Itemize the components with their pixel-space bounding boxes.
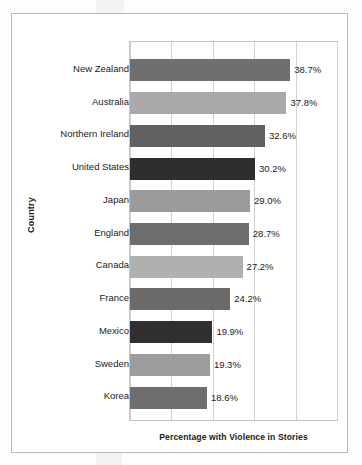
bar-value-label: 37.8% [286,92,317,114]
y-axis-tick-labels: New ZealandAustraliaNorthern IrelandUnit… [18,41,129,421]
scan-artifact-bottom [96,453,122,465]
chart-figure-frame: Country New ZealandAustraliaNorthern Ire… [11,13,348,453]
bar [130,288,230,310]
bar-row: 28.7% [130,218,337,251]
y-axis-tick-label: Australia [18,86,129,119]
bar-value-label: 32.6% [265,125,296,147]
y-axis-tick-label: France [18,282,129,315]
y-axis-tick-label: Japan [18,184,129,217]
bar-row: 19.9% [130,316,337,349]
gridline-50 [337,42,338,420]
x-axis-title: Percentage with Violence in Stories [129,432,338,442]
bar-value-label: 18.6% [207,387,238,409]
bar [130,321,212,343]
y-axis-tick-label: Mexico [18,315,129,348]
bar-row: 32.6% [130,119,337,152]
y-axis-tick-label: England [18,217,129,250]
bar-value-label: 30.2% [255,158,286,180]
bar [130,92,286,114]
bar-row: 19.3% [130,349,337,382]
y-axis-tick-label: United States [18,151,129,184]
bar-row: 29.0% [130,185,337,218]
bar-row: 24.2% [130,283,337,316]
bar-value-label: 38.7% [290,59,321,81]
bar-value-label: 19.3% [210,354,241,376]
y-axis-tick-label: New Zealand [18,53,129,86]
bar-value-label: 27.2% [243,256,274,278]
bar-series: 38.7%37.8%32.6%30.2%29.0%28.7%27.2%24.2%… [130,42,337,420]
bar [130,387,207,409]
bar-row: 18.6% [130,381,337,414]
bar [130,59,290,81]
bar [130,125,265,147]
bar [130,190,250,212]
bar-row: 38.7% [130,54,337,87]
bar-row: 37.8% [130,87,337,120]
y-axis-tick-label: Canada [18,249,129,282]
bar-row: 30.2% [130,152,337,185]
bar-row: 27.2% [130,250,337,283]
bar [130,158,255,180]
y-axis-tick-label: Sweden [18,348,129,381]
scan-artifact-top [96,0,124,13]
plot-area: 38.7%37.8%32.6%30.2%29.0%28.7%27.2%24.2%… [129,41,338,421]
bar-value-label: 29.0% [250,190,281,212]
y-axis-tick-label: Northern Ireland [18,118,129,151]
bar-value-label: 28.7% [249,223,280,245]
y-axis-tick-label: Korea [18,380,129,413]
bar [130,256,243,278]
bar-value-label: 19.9% [212,321,243,343]
bar-value-label: 24.2% [230,288,261,310]
bar [130,223,249,245]
bar [130,354,210,376]
